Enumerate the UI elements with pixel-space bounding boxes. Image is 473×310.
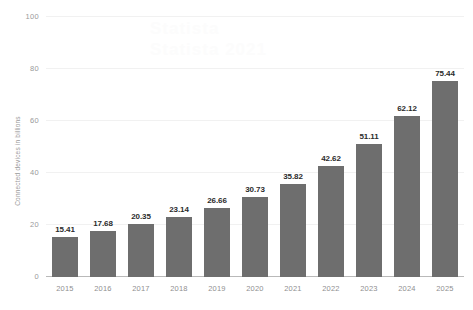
bar-slot: 51.11 xyxy=(350,17,388,277)
plot-area: 020406080100 15.4117.6820.3523.1426.6630… xyxy=(46,17,464,277)
bar-value-label: 20.35 xyxy=(131,212,151,221)
x-axis-tick-label: 2019 xyxy=(198,284,236,293)
y-axis-tick-label: 40 xyxy=(30,168,39,177)
bar[interactable]: 75.44 xyxy=(432,81,459,277)
bar-value-label: 42.62 xyxy=(321,154,341,163)
bar[interactable]: 42.62 xyxy=(318,166,345,277)
bar[interactable]: 51.11 xyxy=(356,144,383,277)
bar-slot: 23.14 xyxy=(160,17,198,277)
bar[interactable]: 20.35 xyxy=(128,224,155,277)
bar[interactable]: 26.66 xyxy=(204,208,231,277)
bar-slot: 15.41 xyxy=(46,17,84,277)
bar-slot: 42.62 xyxy=(312,17,350,277)
x-axis-tick-label: 2015 xyxy=(46,284,84,293)
bar-slot: 35.82 xyxy=(274,17,312,277)
bar-value-label: 26.66 xyxy=(207,196,227,205)
bar-slot: 75.44 xyxy=(426,17,464,277)
bar-slot: 62.12 xyxy=(388,17,426,277)
y-axis-tick-label: 20 xyxy=(30,220,39,229)
x-axis-tick-label: 2018 xyxy=(160,284,198,293)
bar-slot: 17.68 xyxy=(84,17,122,277)
x-axis-tick-label: 2020 xyxy=(236,284,274,293)
y-axis-tick-label: 100 xyxy=(26,12,39,21)
bar[interactable]: 17.68 xyxy=(90,231,117,277)
y-axis-tick-label: 80 xyxy=(30,64,39,73)
x-axis-tick-label: 2017 xyxy=(122,284,160,293)
bar-value-label: 17.68 xyxy=(93,219,113,228)
x-axis-tick-label: 2021 xyxy=(274,284,312,293)
bar[interactable]: 35.82 xyxy=(280,184,307,277)
bar-slot: 20.35 xyxy=(122,17,160,277)
bar-value-label: 30.73 xyxy=(245,185,265,194)
y-axis-tick-label: 0 xyxy=(35,272,39,281)
bar-value-label: 35.82 xyxy=(283,172,303,181)
bar[interactable]: 30.73 xyxy=(242,197,269,277)
bar-value-label: 51.11 xyxy=(359,132,378,141)
bar[interactable]: 62.12 xyxy=(394,116,421,278)
bar-value-label: 23.14 xyxy=(169,205,189,214)
bar-value-label: 75.44 xyxy=(435,69,455,78)
y-axis-title: Connected devices in billions xyxy=(14,96,21,226)
bar-series: 15.4117.6820.3523.1426.6630.7335.8242.62… xyxy=(46,17,464,277)
bar[interactable]: 15.41 xyxy=(52,237,79,277)
x-axis-tick-label: 2022 xyxy=(312,284,350,293)
x-axis-tick-label: 2023 xyxy=(350,284,388,293)
x-axis-tick-label: 2025 xyxy=(426,284,464,293)
bar-value-label: 15.41 xyxy=(55,225,75,234)
x-axis-tick-label: 2016 xyxy=(84,284,122,293)
bar-value-label: 62.12 xyxy=(397,104,417,113)
x-axis-tick-label: 2024 xyxy=(388,284,426,293)
x-axis-tick-labels: 2015201620172018201920202021202220232024… xyxy=(46,284,464,293)
bar[interactable]: 23.14 xyxy=(166,217,193,277)
bar-slot: 30.73 xyxy=(236,17,274,277)
bar-slot: 26.66 xyxy=(198,17,236,277)
y-axis-tick-label: 60 xyxy=(30,116,39,125)
bar-chart: Statista Statista 2021 Connected devices… xyxy=(0,0,473,310)
